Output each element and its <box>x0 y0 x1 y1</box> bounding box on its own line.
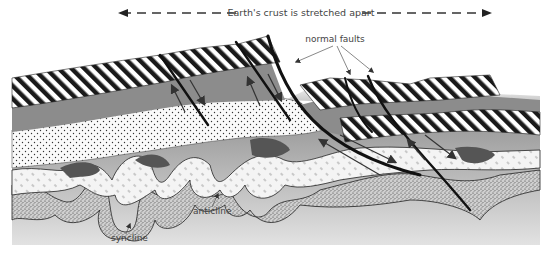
stretch-label: Earth's crust is stretched apart <box>228 7 375 18</box>
geology-diagram: Earth's crust is stretched apart <box>0 0 550 254</box>
normal-faults-label: normal faults <box>305 34 365 44</box>
arrow-left-icon <box>118 9 128 17</box>
syncline-label: syncline <box>111 233 148 243</box>
anticline-label: anticline <box>193 206 232 216</box>
arrow-right-icon <box>482 9 492 17</box>
